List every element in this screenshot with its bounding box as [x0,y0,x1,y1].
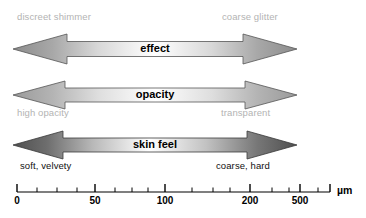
row-opacity-left-label: high opacity [17,107,69,118]
row-effect-arrow: effect [13,31,297,67]
row-skin-feel-right-label: coarse, hard [216,160,270,171]
row-effect-left-label: discreet shimmer [17,11,91,22]
axis-tick-label-0: 0 [14,195,20,206]
row-effect-right-label: coarse glitter [222,11,278,22]
axis-tick-label-200: 200 [242,195,259,206]
axis-tick-label-50: 50 [89,195,100,206]
row-skin-feel-arrow: skin feel [13,128,297,162]
row-skin-feel-left-label: soft, velvety [20,160,71,171]
double-arrow-effect-icon [13,31,297,67]
axis-tick-label-100: 100 [157,195,174,206]
axis-unit-label: µm [337,184,352,196]
particle-size-diagram: discreet shimmer coarse glitter effect [0,0,366,218]
axis-line-and-ticks [0,182,366,200]
axis-tick-label-500: 500 [292,195,309,206]
particle-size-axis: 050100200500 µm [0,182,366,218]
row-opacity-right-label: transparent [221,107,270,118]
double-arrow-skin-feel-icon [13,128,297,162]
